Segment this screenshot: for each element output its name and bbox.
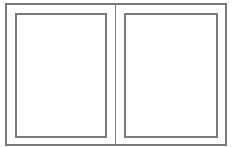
left-panel (15, 13, 107, 138)
center-divider (115, 3, 116, 146)
right-panel (124, 13, 218, 138)
